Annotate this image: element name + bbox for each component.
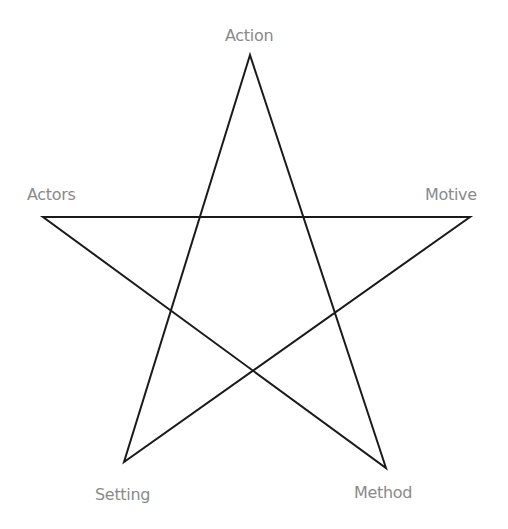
label-motive: Motive (425, 187, 477, 203)
label-action: Action (225, 28, 273, 44)
label-actors: Actors (27, 187, 76, 203)
label-setting: Setting (95, 487, 150, 503)
pentagram-star (0, 0, 508, 529)
pentagram-diagram: Action Actors Motive Setting Method (0, 0, 508, 529)
label-method: Method (354, 485, 412, 501)
star-outline (43, 55, 470, 468)
